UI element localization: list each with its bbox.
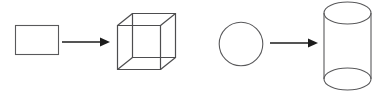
group-rectangle-to-cube bbox=[16, 14, 176, 70]
rectangle-shape bbox=[16, 26, 59, 55]
group-circle-to-cylinder bbox=[219, 2, 371, 90]
cube-back-face bbox=[133, 14, 176, 58]
cylinder-body bbox=[324, 13, 371, 79]
shape-transformation-diagram: 2D shapes transforming into 3D solids bbox=[0, 0, 377, 94]
cube-front-face bbox=[118, 26, 161, 70]
cube-depth-edges bbox=[118, 14, 176, 70]
cube-shape bbox=[118, 14, 176, 70]
circle-shape bbox=[219, 22, 263, 66]
cylinder-bottom-ellipse bbox=[324, 68, 371, 90]
diagram-canvas bbox=[0, 0, 377, 94]
cylinder-top-ellipse bbox=[324, 2, 371, 24]
arrow-rectangle-to-cube bbox=[62, 38, 110, 47]
arrow-circle-to-cylinder bbox=[270, 39, 318, 48]
cylinder-shape bbox=[324, 2, 371, 90]
